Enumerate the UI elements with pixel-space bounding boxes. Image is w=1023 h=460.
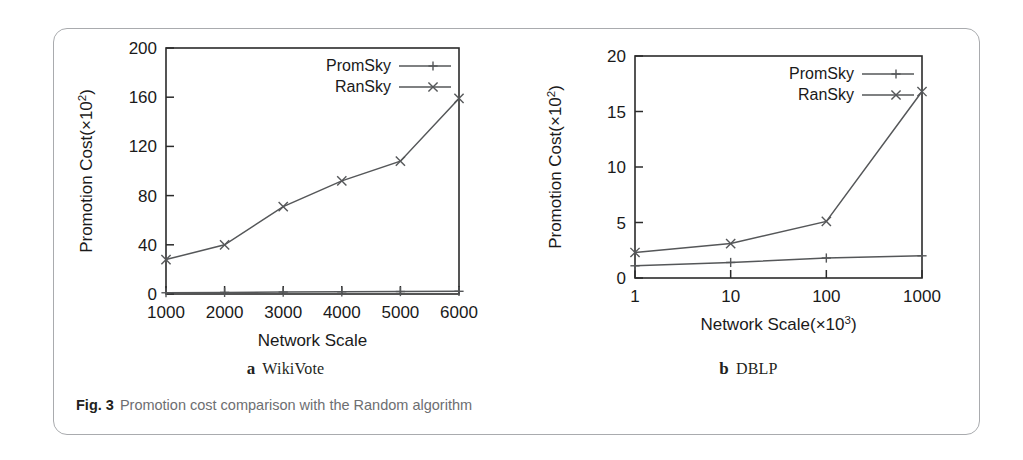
series-line-ransky [635,92,922,253]
plot-frame [635,56,922,278]
data-point-ransky [220,240,229,249]
subfigure-caption-b: bDBLP [517,359,980,379]
data-point-ransky [279,202,288,211]
x-tick-label: 10 [721,287,740,306]
figure-caption-text: Promotion cost comparison with the Rando… [120,397,472,413]
y-tick-label: 0 [148,285,157,304]
x-tick-label: 6000 [440,303,478,322]
series-line-promsky [166,291,459,292]
x-axis-title: Network Scale [258,331,368,350]
y-tick-label: 15 [607,103,626,122]
legend-label-promsky: PromSky [326,57,391,74]
y-tick-label: 120 [129,137,157,156]
y-axis-title: Promotion Cost(×102) [76,89,96,253]
data-point-promsky [917,251,926,260]
chart-dblp: 051015201101001000Network Scale(×103)Pro… [517,29,980,359]
data-point-promsky [726,258,735,267]
panel-b: 051015201101001000Network Scale(×103)Pro… [517,29,980,359]
figure-panels: 04080120160200100020003000400050006000Ne… [54,29,981,359]
subfigure-name-b: DBLP [736,360,778,377]
data-point-promsky [220,288,229,297]
x-tick-label: 1 [630,287,639,306]
y-tick-label: 160 [129,88,157,107]
y-tick-label: 40 [138,236,157,255]
y-tick-label: 20 [607,47,626,66]
data-point-ransky [337,176,346,185]
legend-label-ransky: RanSky [335,78,391,95]
series-line-promsky [635,256,922,266]
data-point-ransky [396,157,405,166]
y-tick-label: 80 [138,187,157,206]
x-tick-label: 5000 [381,303,419,322]
subfigure-name-a: WikiVote [262,360,324,377]
y-axis-title: Promotion Cost(×102) [545,85,565,249]
figure-caption: Fig. 3Promotion cost comparison with the… [76,397,956,413]
panel-a: 04080120160200100020003000400050006000Ne… [54,29,517,359]
data-point-promsky [279,287,288,296]
figure-card: 04080120160200100020003000400050006000Ne… [53,28,980,435]
plot-frame [166,48,459,294]
x-tick-label: 4000 [323,303,361,322]
data-point-promsky [630,261,639,270]
data-point-promsky [161,288,170,297]
subfigure-label-b: b [719,359,729,378]
x-axis-title: Network Scale(×103) [700,314,856,334]
y-tick-label: 0 [617,269,626,288]
data-point-promsky [337,287,346,296]
subfigure-label-a: a [247,359,256,378]
x-tick-label: 3000 [264,303,302,322]
x-tick-label: 2000 [206,303,244,322]
x-tick-label: 1000 [903,287,941,306]
x-tick-label: 1000 [147,303,185,322]
figure-number: Fig. 3 [76,397,114,413]
y-tick-label: 5 [617,214,626,233]
y-tick-label: 10 [607,158,626,177]
x-tick-label: 100 [812,287,840,306]
data-point-promsky [822,253,831,262]
legend-label-promsky: PromSky [789,65,854,82]
series-line-ransky [166,98,459,259]
y-tick-label: 200 [129,39,157,58]
legend-label-ransky: RanSky [798,86,854,103]
chart-wikivote: 04080120160200100020003000400050006000Ne… [54,29,517,359]
subfigure-caption-a: aWikiVote [54,359,517,379]
